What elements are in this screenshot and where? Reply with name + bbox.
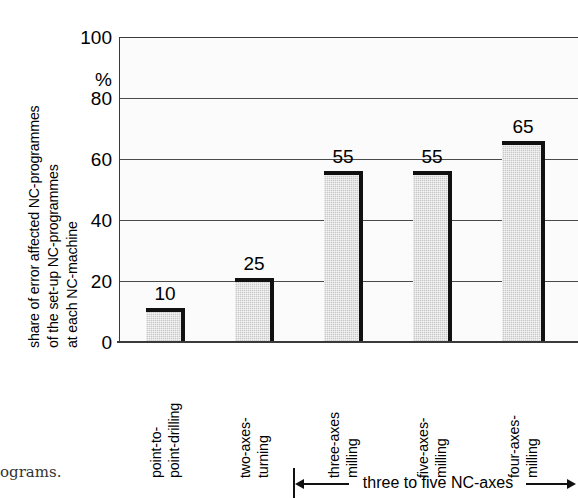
x-category-label-two-axes-turning: two-axes- turning	[234, 358, 274, 478]
caption-fragment: ograms.	[0, 462, 61, 482]
y-tick-label-20: 20	[52, 272, 112, 291]
bar-value-label-1: 25	[243, 254, 264, 273]
x-category-label-point-to-point-drilling: point-to- point-drilling	[145, 358, 185, 478]
y-tick-label-80: 80	[52, 89, 112, 108]
bar-five-axes-milling[interactable]	[413, 171, 452, 342]
range-line-left	[299, 483, 349, 485]
bar-two-axes-turning[interactable]	[235, 278, 274, 342]
gridline-80	[120, 98, 578, 99]
range-annotation-label: three to five NC-axes	[349, 472, 527, 494]
x-axis-category-labels: point-to- point-drilling two-axes- turni…	[0, 342, 578, 462]
bar-four-axes-milling[interactable]	[502, 141, 545, 342]
x-category-label-three-axes-milling: three-axes milling	[323, 358, 363, 478]
arrow-right-icon	[567, 479, 576, 489]
bar-value-label-4: 65	[512, 117, 533, 136]
bar-three-axes-milling[interactable]	[324, 171, 363, 342]
chart-plot-area: 10 25 55 55 65	[119, 37, 578, 342]
y-axis-unit-label: %	[52, 70, 112, 89]
x-category-line-0-0: point-to-	[147, 427, 165, 478]
range-line-right	[526, 483, 572, 485]
x-category-line-0-1: point-drilling	[165, 403, 183, 478]
bar-point-to-point-drilling[interactable]	[146, 308, 185, 342]
range-annotation: three to five NC-axes	[293, 468, 578, 498]
bar-value-label-2: 55	[332, 147, 353, 166]
y-tick-label-100: 100	[52, 28, 112, 47]
y-axis-tick-labels: 100 % 80 60 40 20 0	[50, 37, 112, 342]
x-category-label-four-axes-milling: four-axes- milling	[503, 358, 543, 478]
chart-plot-inner: 10 25 55 55 65	[120, 38, 578, 342]
y-tick-label-60: 60	[52, 150, 112, 169]
bar-value-label-0: 10	[154, 284, 175, 303]
bar-value-label-3: 55	[421, 147, 442, 166]
x-category-line-1-0: two-axes-	[236, 417, 254, 478]
y-tick-label-40: 40	[52, 211, 112, 230]
y-axis-title-line-1: share of error affected NC-programmes	[25, 105, 44, 348]
x-category-label-five-axes-milling: five-axes- milling	[412, 358, 452, 478]
x-category-line-1-1: turning	[254, 435, 272, 478]
